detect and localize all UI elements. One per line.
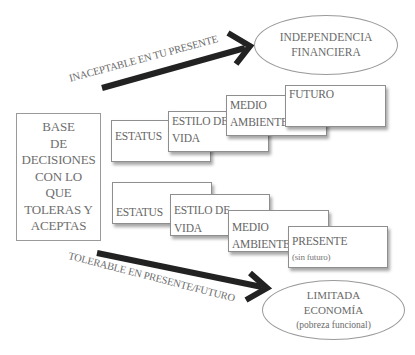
base-line: DECISIONES (22, 152, 96, 169)
card-sublabel: (sin futuro) (292, 251, 384, 264)
base-line: DE (50, 136, 67, 153)
base-line: BASE (42, 119, 74, 136)
base-line: ACEPTAS (31, 218, 86, 235)
decision-diagram: INACEPTABLE EN TU PRESENTE TOLERABLE EN … (0, 0, 415, 355)
top-card-futuro: FUTURO (285, 85, 386, 127)
outcome-line: FINANCIERA (291, 45, 361, 60)
outcome-subline: (pobreza funcional) (296, 318, 371, 333)
bottom-card-presente: PRESENTE (sin futuro) (288, 226, 388, 268)
card-label: FUTURO (289, 87, 382, 102)
outcome-independencia-financiera: INDEPENDENCIA FINANCIERA (254, 15, 398, 75)
card-label: PRESENTE (292, 234, 384, 249)
base-decisions-box: BASE DE DECISIONES CON LO QUE TOLERAS Y … (16, 113, 101, 241)
base-line: QUE (45, 185, 71, 202)
base-line: TOLERAS Y (24, 202, 93, 219)
outcome-line: INDEPENDENCIA (280, 30, 373, 45)
bottom-arrow-label: TOLERABLE EN PRESENTE/FUTURO (67, 250, 236, 304)
bottom-arrow-icon (97, 253, 267, 300)
outcome-limitada-economia: LIMITADA ECONOMÍA (pobreza funcional) (262, 280, 405, 340)
top-arrow-label: INACEPTABLE EN TU PRESENTE (68, 33, 219, 83)
outcome-line: LIMITADA (307, 288, 361, 303)
base-line: CON LO (35, 169, 82, 186)
outcome-line: ECONOMÍA (304, 303, 363, 318)
